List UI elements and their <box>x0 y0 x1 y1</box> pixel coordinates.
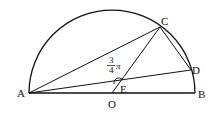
label-a: A <box>17 87 25 99</box>
label-d: D <box>192 64 200 76</box>
angle-denominator: 4 <box>109 65 114 75</box>
label-e: E <box>120 83 127 95</box>
label-o: O <box>108 98 116 110</box>
segment-ac <box>29 27 160 93</box>
segment-cd <box>160 27 191 70</box>
angle-numerator: 3 <box>109 55 114 65</box>
geometry-diagram: A B O C D E 3 4 π <box>0 0 211 117</box>
angle-pi-symbol: π <box>116 61 121 71</box>
label-c: C <box>161 15 168 27</box>
label-b: B <box>198 88 205 100</box>
